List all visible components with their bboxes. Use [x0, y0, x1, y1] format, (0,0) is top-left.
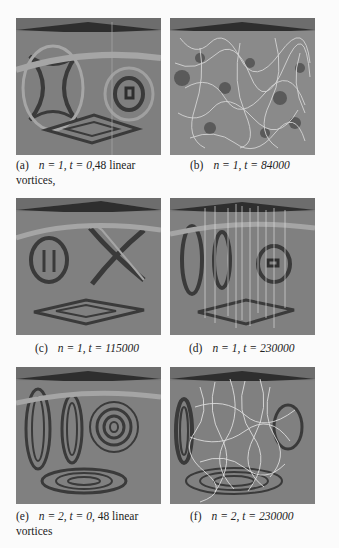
panel-e-image [16, 367, 161, 504]
panel-f-image [170, 367, 315, 504]
caption-a: (a)n = 1, t = 0,48 linear [16, 158, 135, 173]
panel-d-image [170, 198, 315, 335]
caption-b: (b)n = 1, t = 84000 [190, 158, 290, 173]
cube-render-e [16, 367, 161, 504]
caption-f: (f)n = 2, t = 230000 [190, 509, 293, 524]
cube-render-d [170, 198, 315, 335]
caption-e-line2: vortices [16, 524, 52, 539]
cube-render-b [170, 18, 315, 155]
panel-a-image [16, 18, 161, 155]
cube-render-a [16, 18, 161, 155]
cube-render-c [16, 198, 161, 335]
caption-c: (c)n = 1, t = 115000 [35, 341, 139, 356]
panel-c-image [16, 198, 161, 335]
panel-b-image [170, 18, 315, 155]
cube-render-f [170, 367, 315, 504]
caption-a-line2: vortices, [16, 173, 55, 188]
caption-d: (d)n = 1, t = 230000 [189, 341, 294, 356]
caption-e: (e)n = 2, t = 0, 48 linear [16, 509, 138, 524]
